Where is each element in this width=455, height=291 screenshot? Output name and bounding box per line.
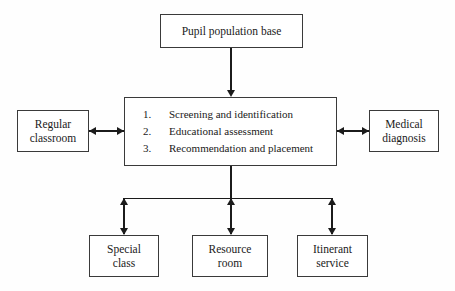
node-resource-room[interactable]: Resource room [192, 235, 268, 277]
node-itinerant-service[interactable]: Itinerant service [297, 235, 368, 277]
connector-branch-itinerant-service-arrowhead-down [328, 228, 336, 235]
node-process-steps[interactable]: Screening and identification Educational… [124, 97, 337, 166]
node-resource-room-label: Resource room [205, 242, 256, 270]
connector-left-center-arrowhead-left [89, 127, 96, 135]
node-medical-diagnosis-label: Medical diagnosis [378, 117, 429, 145]
node-special-class-label: Special class [103, 242, 145, 270]
node-itinerant-service-label: Itinerant service [309, 242, 356, 270]
connector-center-stem [230, 166, 232, 199]
connector-branch-resource-room-arrowhead-up [227, 198, 235, 205]
node-medical-diagnosis[interactable]: Medical diagnosis [369, 110, 439, 152]
node-pupil-population-base[interactable]: Pupil population base [160, 14, 303, 48]
connector-center-right-arrowhead-right [362, 127, 369, 135]
node-regular-classroom-label: Regular classroom [26, 117, 81, 145]
process-steps-list: Screening and identification Educational… [125, 106, 336, 156]
node-special-class[interactable]: Special class [89, 235, 159, 277]
connector-branch-special-class-arrowhead-up [120, 198, 128, 205]
connector-branch-special-class-arrowhead-down [120, 228, 128, 235]
connector-branch-resource-room-arrowhead-down [227, 228, 235, 235]
connector-left-center-arrowhead-right [117, 127, 124, 135]
diagram-canvas: Pupil population base Screening and iden… [0, 0, 455, 291]
connector-branch-itinerant-service-arrowhead-up [328, 198, 336, 205]
node-pupil-population-base-label: Pupil population base [178, 24, 286, 38]
connector-top-to-center-arrowhead [227, 90, 235, 97]
node-regular-classroom[interactable]: Regular classroom [17, 110, 89, 152]
connector-center-right-arrowhead-left [337, 127, 344, 135]
process-step-2: Educational assessment [143, 123, 336, 140]
process-step-1: Screening and identification [143, 106, 336, 123]
process-step-3: Recommendation and placement [143, 140, 336, 157]
connector-top-to-center-line [230, 48, 232, 91]
